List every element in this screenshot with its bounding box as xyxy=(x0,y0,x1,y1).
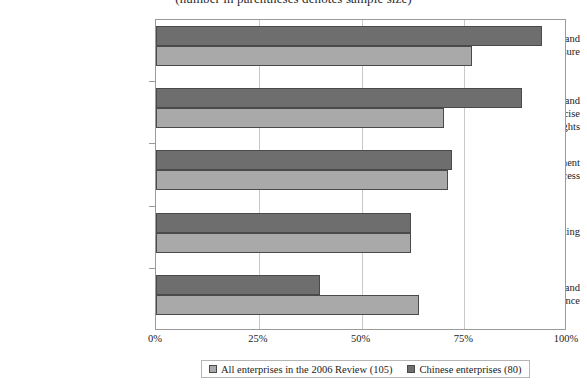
plot-area xyxy=(155,19,566,330)
bar-group xyxy=(156,20,565,82)
bar-group xyxy=(156,269,565,331)
bar-chinese-enterprises xyxy=(156,213,411,233)
legend-swatch-icon xyxy=(209,365,217,373)
bar-chinese-enterprises xyxy=(156,150,452,170)
bar-all-enterprises xyxy=(156,108,444,128)
bar-group xyxy=(156,82,565,144)
x-axis-tick-label: 25% xyxy=(228,333,288,344)
bar-all-enterprises xyxy=(156,295,419,315)
bar-chinese-enterprises xyxy=(156,88,522,108)
legend-item: All enterprises in the 2006 Review (105) xyxy=(209,364,392,375)
bar-all-enterprises xyxy=(156,233,411,253)
chart-legend: All enterprises in the 2006 Review (105)… xyxy=(201,360,530,378)
x-axis-tick-label: 50% xyxy=(331,333,391,344)
x-axis-tick-label: 75% xyxy=(433,333,493,344)
chart-title: (number in parentheses denotes sample si… xyxy=(0,0,587,7)
bar-group xyxy=(156,207,565,269)
bar-group xyxy=(156,144,565,206)
bar-chinese-enterprises xyxy=(156,275,320,295)
bar-all-enterprises xyxy=(156,170,448,190)
legend-item-label: All enterprises in the 2006 Review (105) xyxy=(221,364,392,375)
bar-all-enterprises xyxy=(156,46,472,66)
legend-swatch-icon xyxy=(407,365,415,373)
legend-item: Chinese enterprises (80) xyxy=(407,364,521,375)
x-axis-tick-label: 0% xyxy=(125,333,185,344)
bar-chinese-enterprises xyxy=(156,26,542,46)
x-axis-tick-label: 100% xyxy=(536,333,587,344)
legend-item-label: Chinese enterprises (80) xyxy=(419,364,521,375)
